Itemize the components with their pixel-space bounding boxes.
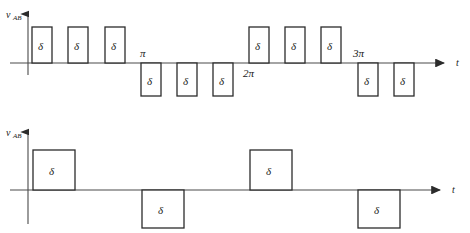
top-pulse-1-label: δ (38, 40, 44, 52)
bottom-waveform-plot: v AB t δ δ δ δ (6, 127, 455, 228)
top-x-axis-label: t (456, 57, 459, 68)
top-y-axis-sublabel: AB (12, 14, 22, 22)
top-pulse-6-label: δ (219, 75, 225, 87)
top-pulse-10: δ (358, 63, 378, 96)
top-pulse-9-label: δ (327, 40, 333, 52)
bottom-x-axis-label: t (452, 184, 455, 195)
bottom-pulse-3: δ (250, 150, 292, 190)
top-pulse-4: δ (141, 63, 161, 96)
bottom-pulse-3-label: δ (266, 165, 272, 177)
top-pulse-10-label: δ (364, 75, 370, 87)
top-pulse-9: δ (321, 27, 341, 63)
top-tick-3pi: 3π (352, 47, 365, 59)
top-tick-pi: π (140, 47, 146, 59)
top-pulse-3: δ (105, 27, 125, 63)
top-pulse-5: δ (177, 63, 197, 96)
bottom-pulse-1-label: δ (49, 165, 55, 177)
bottom-pulse-2: δ (142, 190, 184, 228)
top-pulse-8: δ (285, 27, 305, 63)
top-pulse-4-label: δ (147, 75, 153, 87)
waveform-figure: v AB t π 2π 3π δ δ δ δ δ δ (0, 0, 470, 233)
bottom-pulse-2-label: δ (158, 204, 164, 216)
top-pulse-2: δ (68, 27, 88, 63)
top-pulse-11-label: δ (400, 75, 406, 87)
top-waveform-plot: v AB t π 2π 3π δ δ δ δ δ δ (6, 9, 459, 96)
top-pulse-5-label: δ (183, 75, 189, 87)
bottom-pulse-4-label: δ (374, 204, 380, 216)
bottom-pulse-1: δ (33, 150, 75, 190)
top-pulse-7-label: δ (255, 40, 261, 52)
bottom-pulse-4: δ (358, 190, 400, 228)
top-pulse-3-label: δ (111, 40, 117, 52)
top-tick-2pi: 2π (243, 67, 255, 79)
top-y-axis-label: v (6, 9, 11, 20)
top-pulse-2-label: δ (74, 40, 80, 52)
top-pulse-8-label: δ (291, 40, 297, 52)
top-pulse-11: δ (394, 63, 414, 96)
top-pulse-6: δ (213, 63, 233, 96)
top-pulse-7: δ (249, 27, 269, 63)
bottom-y-axis-label: v (6, 127, 11, 138)
top-pulse-1: δ (32, 27, 52, 63)
bottom-y-axis-sublabel: AB (12, 132, 22, 140)
